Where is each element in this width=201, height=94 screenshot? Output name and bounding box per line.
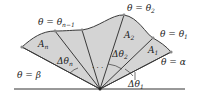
label-dtheta-1: Δθ1 <box>127 79 144 90</box>
polar-area-diagram: θ = θn−1 θ = θ2 θ = θ1 θ = α θ = β An A2… <box>0 0 201 94</box>
label-theta-2: θ = θ2 <box>127 3 155 14</box>
ellipsis: · · · <box>92 64 103 72</box>
label-theta-beta: θ = β <box>17 70 41 80</box>
label-theta-1: θ = θ1 <box>160 29 188 40</box>
origin-point <box>99 88 102 91</box>
label-theta-alpha: θ = α <box>161 57 186 67</box>
label-theta-n-1: θ = θn−1 <box>38 17 75 28</box>
